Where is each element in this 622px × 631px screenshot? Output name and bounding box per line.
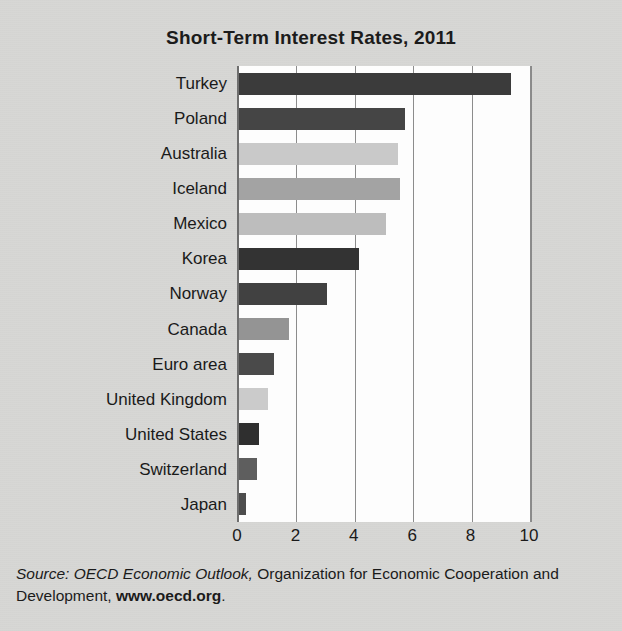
category-label-united-kingdom: United Kingdom: [0, 382, 231, 417]
bar-korea[interactable]: [239, 248, 359, 270]
category-label-iceland: Iceland: [0, 171, 231, 206]
bar-poland[interactable]: [239, 108, 405, 130]
bar-row: [239, 241, 531, 276]
bar-row: [239, 206, 531, 241]
bar-row: [239, 452, 531, 487]
bar-canada[interactable]: [239, 318, 289, 340]
bar-row: [239, 312, 531, 347]
category-label-canada: Canada: [0, 312, 231, 347]
bar-norway[interactable]: [239, 283, 327, 305]
xtick-label-0: 0: [232, 526, 241, 546]
category-label-euro-area: Euro area: [0, 347, 231, 382]
category-label-australia: Australia: [0, 136, 231, 171]
bar-united-kingdom[interactable]: [239, 388, 268, 410]
source-period: .: [221, 587, 225, 604]
category-label-japan: Japan: [0, 487, 231, 522]
bar-mexico[interactable]: [239, 213, 386, 235]
figure-page: Short-Term Interest Rates, 2011 TurkeyPo…: [0, 0, 622, 631]
bar-row: [239, 171, 531, 206]
bar-row: [239, 66, 531, 101]
plot-area: [237, 66, 532, 522]
bar-row: [239, 417, 531, 452]
bar-row: [239, 276, 531, 311]
bar-row: [239, 136, 531, 171]
bar-japan[interactable]: [239, 493, 246, 515]
bar-australia[interactable]: [239, 143, 398, 165]
category-label-norway: Norway: [0, 276, 231, 311]
xtick-label-2: 2: [291, 526, 300, 546]
category-label-korea: Korea: [0, 241, 231, 276]
bar-row: [239, 101, 531, 136]
category-label-united-states: United States: [0, 417, 231, 452]
bar-united-states[interactable]: [239, 423, 259, 445]
bar-row: [239, 347, 531, 382]
bar-iceland[interactable]: [239, 178, 400, 200]
xtick-label-8: 8: [466, 526, 475, 546]
bar-row: [239, 487, 531, 522]
xtick-label-6: 6: [407, 526, 416, 546]
bar-switzerland[interactable]: [239, 458, 257, 480]
category-label-mexico: Mexico: [0, 206, 231, 241]
source-publication: Source: OECD Economic Outlook,: [16, 565, 253, 582]
value-axis-labels: 0246810: [237, 526, 529, 552]
category-label-turkey: Turkey: [0, 66, 231, 101]
bar-euro-area[interactable]: [239, 353, 274, 375]
xtick-label-4: 4: [349, 526, 358, 546]
chart-title: Short-Term Interest Rates, 2011: [0, 27, 622, 49]
xtick-label-10: 10: [520, 526, 539, 546]
bar-series: [239, 66, 531, 522]
category-axis-labels: TurkeyPolandAustraliaIcelandMexicoKoreaN…: [0, 66, 231, 522]
category-label-switzerland: Switzerland: [0, 452, 231, 487]
bar-turkey[interactable]: [239, 73, 511, 95]
source-url: www.oecd.org: [116, 587, 221, 604]
category-label-poland: Poland: [0, 101, 231, 136]
bar-row: [239, 382, 531, 417]
source-note: Source: OECD Economic Outlook, Organizat…: [16, 563, 612, 608]
